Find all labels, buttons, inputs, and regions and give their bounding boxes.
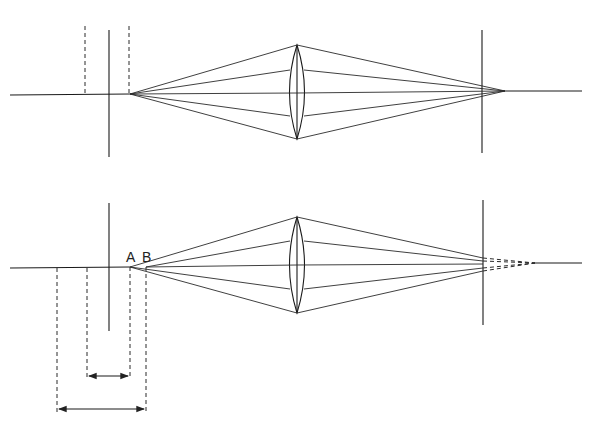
rays-virtual-dashed	[483, 258, 535, 271]
rays-incident	[130, 217, 297, 313]
optics-diagram: A B	[0, 0, 608, 430]
rays-incident	[130, 45, 297, 139]
rays-refracted	[297, 45, 505, 139]
bottom-panel: A B	[10, 200, 582, 412]
optical-axis-left	[10, 94, 130, 95]
rays-refracted	[297, 217, 483, 313]
top-panel	[10, 26, 582, 157]
label-a: A	[126, 249, 136, 265]
optical-axis-left	[10, 267, 130, 268]
